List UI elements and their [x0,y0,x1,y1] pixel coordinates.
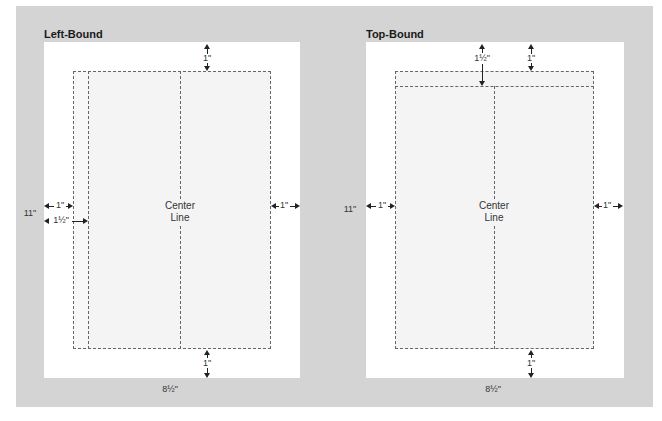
center-line-label: Center Line [160,199,200,225]
height-label: 11" [20,208,40,218]
arrow-right-icon [390,203,395,209]
height-label: 11" [340,204,360,214]
bottom-margin-label: 1" [200,358,214,368]
arrow-down-icon [528,66,534,71]
binding-margin-label: 1½" [470,53,494,63]
arrow-down-icon [528,373,534,378]
left-margin-label: 1" [376,200,388,210]
bottom-margin-label: 1" [524,358,538,368]
diagram-title: Top-Bound [366,28,424,40]
right-margin-label: 1" [278,200,290,210]
left-margin-label: 1" [54,200,66,210]
top-margin-label: 1" [524,53,538,63]
arrow-right-icon [83,218,88,224]
center-line-label: Center Line [474,199,514,225]
width-label: 8½" [155,384,185,394]
arrow-down-icon [204,373,210,378]
arrow-left-icon [44,218,49,224]
diagram-title: Left-Bound [44,28,103,40]
arrow-down-icon [204,66,210,71]
arrow-down-icon [479,81,485,86]
right-margin-label: 1" [601,200,613,210]
arrow-right-icon [295,203,300,209]
arrow-shaft [482,64,483,81]
width-label: 8½" [478,384,508,394]
arrow-right-icon [618,203,623,209]
top-margin-label: 1" [200,53,214,63]
binding-margin-label: 1½" [50,215,72,225]
arrow-right-icon [68,203,73,209]
